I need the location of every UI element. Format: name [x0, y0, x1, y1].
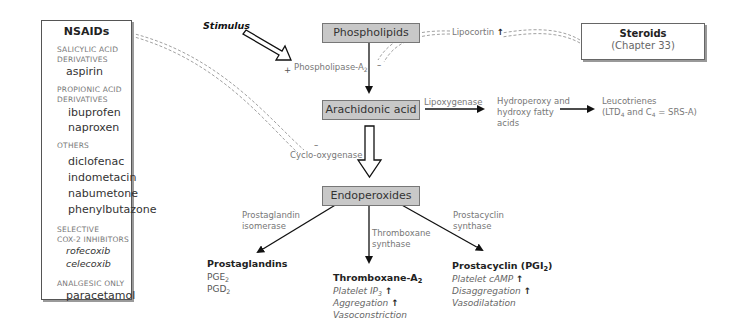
- category-analgesic: ANALGESIC ONLY: [57, 278, 124, 289]
- drug-paracetamol: paracetamol: [66, 289, 135, 302]
- drug-phenylbutazone: phenylbutazone: [68, 203, 157, 216]
- cyclooxygenase-label: Cyclo-oxygenase: [290, 150, 362, 161]
- pgd2: PGD2: [207, 284, 230, 297]
- drug-indometacin: indometacin: [68, 171, 136, 184]
- drug-rofecoxib: rofecoxib: [66, 245, 110, 256]
- phospholipase-label: Phospholipase-A2: [294, 62, 368, 75]
- thromboxane-synthase-label: Thromboxane synthase: [372, 228, 431, 250]
- prostacyclin-effect-vasodilatation: Vasodilatation: [452, 297, 516, 309]
- drug-naproxen: naproxen: [68, 121, 119, 134]
- nsaids-title: NSAIDs: [42, 25, 131, 38]
- drug-aspirin: aspirin: [66, 65, 103, 78]
- stimulus-label: Stimulus: [203, 20, 250, 31]
- category-propionic-2: DERIVATIVES: [57, 94, 108, 105]
- steroids-title: Steroids: [582, 28, 704, 39]
- category-cox2-2: COX-2 INHIBITORS: [57, 234, 129, 245]
- node-phospholipids: Phospholipids: [322, 23, 420, 43]
- thromboxane-effect-aggregation: Aggregation ↑: [333, 297, 399, 309]
- phospholipase-plus: +: [284, 65, 291, 76]
- up-arrow-icon: ↑: [391, 298, 399, 308]
- prostaglandin-isomerase-label: Prostaglandin isomerase: [242, 210, 300, 232]
- up-arrow-icon: ↑: [497, 27, 504, 37]
- drug-ibuprofen: ibuprofen: [68, 106, 121, 119]
- steroids-chapter: (Chapter 33): [582, 40, 704, 51]
- prostacyclin-effect-camp: Platelet cAMP ↑: [452, 273, 524, 285]
- category-salicylic-2: DERIVATIVES: [57, 54, 108, 65]
- steroid-lipocortin-connector: [502, 30, 580, 40]
- prostacyclin-effect-disaggregation: Disaggregation ↑: [452, 285, 531, 297]
- thromboxane-title: Thromboxane-A2: [333, 272, 422, 285]
- steroids-box: Steroids (Chapter 33): [581, 23, 705, 60]
- up-arrow-icon: ↑: [385, 286, 393, 296]
- stimulus-arrow: [243, 30, 291, 60]
- phospholipase-inhibit: –: [377, 60, 381, 71]
- prostaglandins-title: Prostaglandins: [207, 258, 288, 269]
- prostacyclin-synthase-label: Prostacyclin synthase: [453, 210, 504, 232]
- prostacyclin-title: Prostacyclin (PGI2): [452, 260, 552, 273]
- drug-diclofenac: diclofenac: [68, 155, 124, 168]
- thromboxane-effect-vasoconstriction: Vasoconstriction: [333, 309, 407, 321]
- node-arachidonic-acid: Arachidonic acid: [322, 100, 420, 120]
- leucotrienes: Leucotrienes (LTD4 and C4 = SRS-A): [602, 96, 697, 120]
- node-endoperoxides: Endoperoxides: [322, 186, 420, 206]
- up-arrow-icon: ↑: [516, 274, 524, 284]
- up-arrow-icon: ↑: [524, 286, 532, 296]
- drug-nabumetone: nabumetone: [68, 187, 138, 200]
- category-others: OTHERS: [57, 140, 89, 151]
- lipocortin-label: Lipocortin ↑: [452, 27, 504, 38]
- drug-celecoxib: celecoxib: [66, 258, 111, 269]
- lipoxygenase-label: Lipoxygenase: [424, 97, 482, 108]
- hydroperoxy-acids: Hydroperoxy and hydroxy fatty acids: [497, 96, 570, 129]
